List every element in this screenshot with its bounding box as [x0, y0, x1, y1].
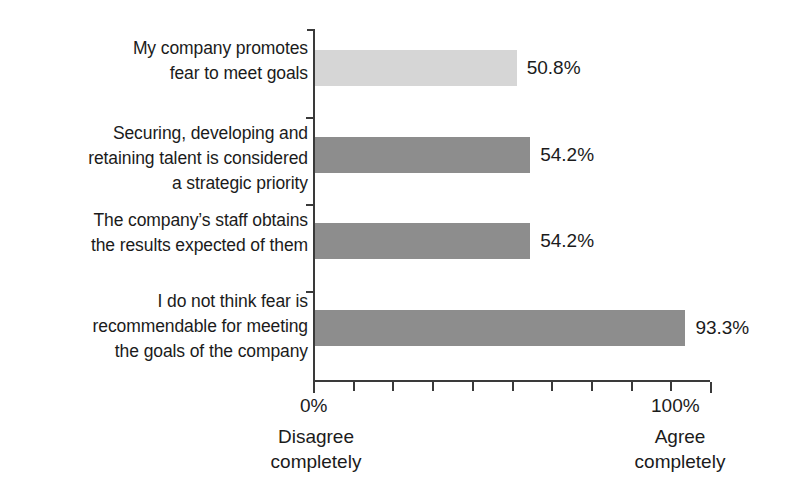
category-label-3-line-1: recommendable for meeting	[8, 314, 308, 339]
x-axis-anchor-left-line-0: Disagree	[236, 424, 396, 449]
bar-2	[315, 223, 530, 259]
x-axis-tick-90	[670, 382, 672, 391]
y-axis-category-tick-1	[306, 117, 314, 119]
x-axis-tick-label-max: 100%	[651, 394, 700, 418]
x-axis-tick-80	[631, 382, 633, 391]
x-axis-line	[313, 380, 710, 382]
x-axis-tick-100	[710, 382, 712, 393]
x-axis-tick-60	[551, 382, 553, 391]
bar-value-label-0: 50.8%	[527, 50, 581, 86]
category-label-3-line-2: the goals of the company	[8, 339, 308, 364]
category-label-1-line-1: retaining talent is considered	[8, 146, 308, 171]
category-label-0-line-1: fear to meet goals	[8, 61, 308, 86]
x-axis-tick-50	[512, 382, 514, 391]
horizontal-bar-chart: My company promotes fear to meet goals S…	[0, 0, 800, 496]
x-axis-anchor-left-line-1: completely	[236, 449, 396, 474]
y-axis-top-cap	[307, 29, 315, 31]
bar-value-label-2: 54.2%	[540, 223, 594, 259]
bar-1	[315, 137, 530, 173]
category-label-1-line-2: a strategic priority	[8, 171, 308, 196]
x-axis-anchor-right-line-0: Agree	[600, 424, 760, 449]
category-label-1-line-0: Securing, developing and	[8, 121, 308, 146]
category-label-0: My company promotes fear to meet goals	[8, 36, 308, 86]
x-axis-anchor-right-line-1: completely	[600, 449, 760, 474]
plot-area: 50.8% 54.2% 54.2% 93.3%	[313, 29, 710, 380]
x-axis-tick-label-min: 0%	[300, 394, 327, 418]
bar-value-label-1: 54.2%	[540, 137, 594, 173]
x-axis-tick-40	[472, 382, 474, 391]
x-axis-anchor-left: Disagree completely	[236, 424, 396, 474]
x-axis-tick-20	[392, 382, 394, 391]
category-label-3-line-0: I do not think fear is	[8, 289, 308, 314]
category-label-0-line-0: My company promotes	[8, 36, 308, 61]
x-axis-anchor-right: Agree completely	[600, 424, 760, 474]
category-label-1: Securing, developing and retaining talen…	[8, 121, 308, 196]
bar-0	[315, 50, 517, 86]
x-axis-tick-30	[432, 382, 434, 391]
x-axis-tick-70	[591, 382, 593, 391]
y-axis-category-tick-3	[306, 291, 314, 293]
x-axis-tick-0	[313, 382, 315, 393]
bar-value-label-3: 93.3%	[695, 310, 749, 346]
category-label-2: The company’s staff obtains the results …	[8, 208, 308, 258]
y-axis-category-tick-2	[306, 204, 314, 206]
x-axis-tick-10	[353, 382, 355, 391]
category-label-3: I do not think fear is recommendable for…	[8, 289, 308, 364]
category-label-2-line-0: The company’s staff obtains	[8, 208, 308, 233]
category-label-2-line-1: the results expected of them	[8, 233, 308, 258]
bar-3	[315, 310, 685, 346]
